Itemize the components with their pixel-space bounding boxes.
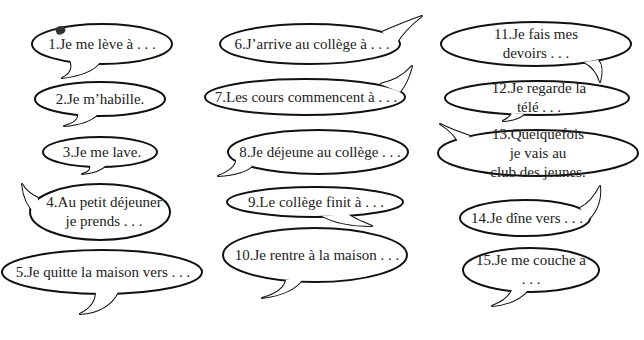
bubble-text-12: 12.Je regarde la télé . . .: [487, 79, 592, 117]
bubble-text-7: 7.Les cours commencent à . . .: [215, 88, 397, 107]
bubble-text-2: 2.Je m’habille.: [56, 90, 145, 109]
bubble-text-5: 5.Je quitte la maison vers . . .: [16, 263, 191, 282]
bubble-text-1: 1.Je me lève à . . .: [48, 35, 155, 54]
bubble-tail-fill: [62, 60, 100, 78]
bubble-text-11: 11.Je fais mes devoirs . . .: [482, 25, 590, 63]
bubble-text-10: 10.Je rentre à la maison . . .: [235, 246, 400, 265]
bubble-text-13: 13.Quelquefois je vais au club des jeune…: [485, 125, 591, 182]
bubble-text-8: 8.Je déjeune au collège . . .: [239, 143, 401, 162]
bubble-text-4: 4.Au petit déjeuner je prends . . .: [46, 193, 161, 231]
bubble-text-3: 3.Je me lave.: [63, 143, 141, 162]
bubble-text-15: 15.Je me couche à . . .: [475, 251, 588, 289]
bubble-text-6: 6.J’arrive au collège à . . .: [235, 35, 390, 54]
speech-bubble-5: [2, 250, 202, 314]
bubble-text-14: 14.Je dîne vers . . .: [471, 209, 583, 228]
bubble-text-9: 9.Le collège finit à . . .: [248, 193, 384, 212]
